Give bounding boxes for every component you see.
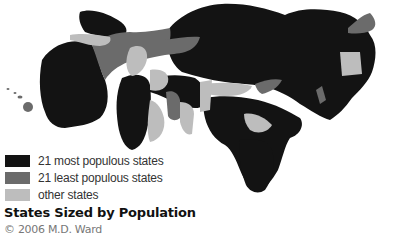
hawaii-big-island <box>23 102 33 112</box>
black-swatch <box>5 155 30 167</box>
legend: 21 most populous states 21 least populou… <box>5 153 163 204</box>
hawaii-island <box>18 96 23 99</box>
texas-shape <box>117 75 151 150</box>
hawaii-island <box>7 88 10 90</box>
colorado-shape <box>126 46 147 76</box>
legend-label: 21 least populous states <box>38 171 163 185</box>
hawaii-island <box>14 92 17 94</box>
legend-label: other states <box>38 188 98 202</box>
louisiana-shape <box>148 100 165 142</box>
light-gray-swatch <box>5 189 30 201</box>
washington-shape <box>79 10 126 36</box>
florida-shape <box>239 139 273 192</box>
legend-item-most-populous: 21 most populous states <box>5 153 163 169</box>
arkansas-shape <box>166 91 180 120</box>
dark-gray-swatch <box>5 172 30 184</box>
map-title: States Sized by Population <box>4 205 196 220</box>
connecticut-shape <box>340 52 362 76</box>
copyright-credit: © 2006 M.D. Ward <box>4 223 102 236</box>
legend-item-other: other states <box>5 187 163 203</box>
legend-item-least-populous: 21 least populous states <box>5 170 163 186</box>
legend-label: 21 most populous states <box>38 154 163 168</box>
